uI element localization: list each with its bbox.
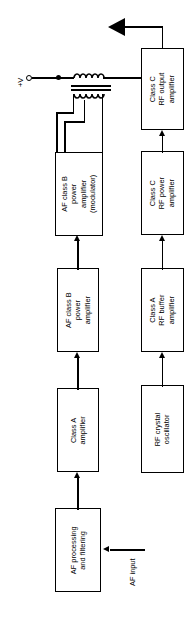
block-af-class-b-power-amplifier: AF class B power amplifier — [57, 268, 99, 352]
junction-dot-icon — [56, 75, 61, 80]
block-af-class-b-modulator: AF class B power amplifier (modulator) — [55, 152, 103, 236]
wire-rfpower-to-rfoutput — [162, 136, 164, 153]
antenna-icon — [108, 18, 125, 36]
block-af-class-b-modulator-label: AF class B power amplifier (modulator) — [60, 175, 98, 213]
block-class-a-rf-buffer-amplifier-label: Class A RF buffer amplifier — [148, 294, 176, 325]
block-class-a-amplifier: Class A amplifier — [57, 388, 99, 472]
block-af-class-b-power-amplifier-label: AF class B power amplifier — [64, 292, 92, 328]
arrowhead-rfpower-to-rfoutput — [159, 130, 165, 136]
block-class-c-rf-output-amplifier-label: Class C RF output amplifier — [148, 73, 176, 106]
arrowhead-af-input — [103, 546, 109, 552]
block-class-c-rf-power-amplifier-label: Class C RF power amplifier — [148, 177, 176, 209]
block-diagram-canvas: AF processing and filtering AF input Cla… — [0, 0, 193, 617]
wire-secondary-left-across — [56, 112, 74, 114]
wire-secondary-tap-join — [84, 112, 86, 122]
label-af-input: AF input — [128, 558, 137, 586]
block-rf-crystal-oscillator-label: RF crystal oscillator — [153, 412, 172, 446]
wire-afclassb-to-modulator — [77, 241, 79, 270]
block-class-a-amplifier-label: Class A amplifier — [69, 416, 88, 444]
wire-secondary-left-to-modulator — [56, 112, 58, 153]
wire-secondary-right-down — [102, 94, 104, 152]
block-af-processing: AF processing and filtering — [55, 508, 101, 592]
wire-oscillator-to-buffer — [162, 358, 164, 387]
wire-af-input — [110, 549, 145, 551]
block-af-processing-label: AF processing and filtering — [69, 526, 88, 574]
wire-rfoutput-to-antenna-horizontal — [125, 26, 163, 28]
wire-supply-rail — [32, 77, 68, 79]
wire-afproc-to-classa — [77, 478, 79, 510]
arrowhead-buffer-to-rfpower — [159, 235, 165, 241]
wire-secondary-left-down — [73, 94, 75, 113]
block-class-c-rf-output-amplifier: Class C RF output amplifier — [141, 48, 184, 130]
block-class-c-rf-power-amplifier: Class C RF power amplifier — [141, 151, 184, 235]
block-class-a-rf-buffer-amplifier: Class A RF buffer amplifier — [141, 268, 184, 352]
wire-secondary-tap-to-modulator — [64, 121, 66, 153]
wire-secondary-tap-across — [64, 121, 85, 123]
transformer-core-bar-bottom — [71, 89, 111, 91]
arrowhead-classa-to-afclassb — [74, 352, 80, 358]
wire-buffer-to-rfpower — [162, 241, 164, 270]
label-supply-voltage: +V — [16, 78, 25, 87]
transformer-secondary-coil-icon — [73, 93, 109, 103]
arrowhead-oscillator-to-buffer — [159, 352, 165, 358]
arrowhead-afproc-to-classa — [74, 472, 80, 478]
wire-classa-to-afclassb — [77, 358, 79, 390]
wire-rfoutput-to-antenna-vertical — [162, 26, 164, 49]
block-rf-crystal-oscillator: RF crystal oscillator — [141, 385, 184, 473]
transformer-core-bar-top — [71, 85, 111, 87]
